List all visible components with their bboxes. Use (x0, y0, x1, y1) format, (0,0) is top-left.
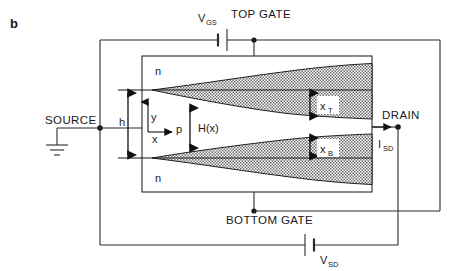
label-isd: I (378, 138, 381, 150)
label-vsd-group: V SD (320, 254, 339, 269)
label-xB: x (320, 143, 326, 155)
label-vgs-group: V GS (198, 12, 217, 27)
label-axis-x: x (152, 133, 158, 145)
ground-icon (46, 145, 68, 155)
label-top-gate: TOP GATE (231, 8, 291, 20)
dimension-Hx: H(x) (190, 108, 219, 148)
label-vgs: V (198, 12, 206, 24)
label-xT-subscript: T (328, 106, 333, 115)
label-bottom-gate: BOTTOM GATE (226, 214, 313, 226)
jfet-schematic-svg: b (0, 0, 450, 271)
label-region-p: p (176, 123, 182, 135)
label-h: h (119, 116, 125, 128)
coordinate-axes: y x (148, 102, 172, 145)
label-isd-group: I SD (378, 138, 394, 153)
label-region-n-bottom: n (155, 172, 161, 184)
device-cross-section: n n p (142, 56, 372, 192)
panel-label: b (10, 16, 18, 31)
label-axis-y: y (151, 111, 157, 123)
label-xT: x (320, 100, 326, 112)
label-source: SOURCE (45, 114, 97, 126)
label-vgs-subscript: GS (206, 18, 217, 27)
node-top-gate (251, 37, 256, 42)
label-xB-subscript: B (328, 149, 333, 158)
figure-root: b (0, 0, 450, 271)
label-vsd-subscript: SD (328, 260, 339, 269)
label-isd-subscript: SD (383, 144, 394, 153)
label-region-n-top: n (155, 65, 161, 77)
drain-terminal-group (372, 124, 401, 130)
label-Hx: H(x) (198, 122, 219, 134)
label-vsd: V (320, 254, 328, 266)
dimension-h: h (118, 90, 142, 158)
label-drain: DRAIN (382, 109, 420, 121)
